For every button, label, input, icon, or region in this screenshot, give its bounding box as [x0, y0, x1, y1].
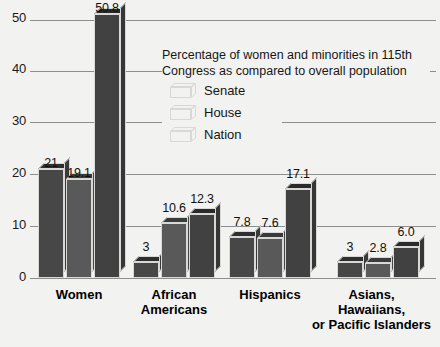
swatch-front-face [170, 87, 191, 98]
category-label-african-americans: African Americans [124, 287, 224, 317]
swatch-side-face [191, 82, 196, 97]
legend-swatch-senate-icon [170, 83, 196, 98]
legend-label-house: House [204, 105, 242, 120]
bar-african-americans-house [161, 223, 187, 278]
bar-front-face [285, 189, 311, 278]
bar-value-african-americans-senate: 3 [133, 240, 159, 254]
bar-front-face [229, 237, 255, 278]
bar-value-asians-house: 2.8 [360, 241, 396, 255]
y-axis-tick-10: 10 [0, 217, 26, 232]
category-label-line: or Pacific Islanders [303, 317, 440, 332]
bar-asians-nation [393, 247, 419, 278]
category-label-asians: Asians, Hawaiians, or Pacific Islanders [303, 287, 440, 332]
category-label-women: Women [29, 287, 129, 302]
bar-value-women-nation: 50.8 [89, 1, 125, 15]
swatch-front-face [170, 109, 191, 120]
swatch-front-face [170, 131, 191, 142]
bar-front-face [257, 238, 283, 278]
bar-side-face [120, 2, 126, 272]
bar-hispanics-house [257, 238, 283, 278]
category-label-line: Women [29, 287, 129, 302]
bar-front-face [66, 179, 92, 278]
bar-side-face [311, 177, 317, 272]
bar-women-house [66, 179, 92, 278]
bar-asians-house [365, 263, 391, 278]
bar-front-face [337, 262, 363, 278]
bar-value-hispanics-house: 7.6 [252, 216, 288, 230]
category-label-line: Americans [124, 302, 224, 317]
bar-value-asians-nation: 6.0 [388, 225, 424, 239]
bar-front-face [189, 214, 215, 278]
bar-side-face [419, 235, 425, 272]
legend-swatch-nation-icon [170, 127, 196, 142]
bar-chart: 50 40 30 20 10 0 21 19.1 50.8 Women [0, 0, 440, 347]
bar-hispanics-senate [229, 237, 255, 278]
bar-african-americans-senate [133, 262, 159, 278]
bar-hispanics-nation [285, 189, 311, 278]
legend-label-nation: Nation [204, 127, 242, 142]
bar-front-face [393, 247, 419, 278]
y-axis-tick-40: 40 [0, 61, 26, 76]
gridline-0 [30, 278, 436, 279]
bar-front-face [365, 263, 391, 278]
y-axis-tick-30: 30 [0, 113, 26, 128]
bar-front-face [38, 169, 64, 278]
bar-women-nation [94, 14, 120, 278]
category-label-line: Hawaiians, [303, 302, 440, 317]
y-axis-tick-20: 20 [0, 165, 26, 180]
category-label-line: Asians, [303, 287, 440, 302]
legend-entry-house: House [162, 101, 282, 123]
bar-front-face [94, 14, 120, 278]
chart-legend: Percentage of women and minorities in 11… [162, 48, 432, 145]
bar-side-face [215, 202, 221, 272]
bar-african-americans-nation [189, 214, 215, 278]
gridline-50 [30, 20, 436, 21]
legend-label-senate: Senate [204, 83, 245, 98]
category-label-line: African [124, 287, 224, 302]
y-axis-tick-50: 50 [0, 10, 26, 25]
bar-value-african-americans-nation: 12.3 [184, 192, 220, 206]
bar-value-hispanics-nation: 17.1 [280, 167, 316, 181]
legend-entry-nation: Nation [162, 123, 282, 145]
swatch-side-face [191, 104, 196, 119]
legend-swatch-house-icon [170, 105, 196, 120]
legend-caption: Percentage of women and minorities in 11… [162, 48, 430, 79]
bar-women-senate [38, 169, 64, 278]
swatch-side-face [191, 126, 196, 141]
bar-value-women-house: 19.1 [61, 166, 97, 180]
bar-front-face [133, 262, 159, 278]
bar-asians-senate [337, 262, 363, 278]
y-axis-tick-0: 0 [0, 269, 26, 284]
bar-front-face [161, 223, 187, 278]
legend-entry-senate: Senate [162, 79, 282, 101]
